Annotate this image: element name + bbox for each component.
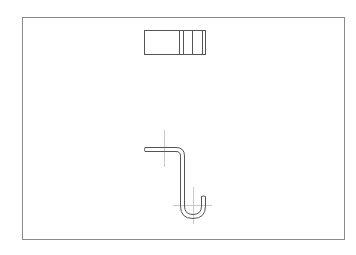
background [0, 0, 356, 255]
technical-drawing-canvas [0, 0, 356, 255]
